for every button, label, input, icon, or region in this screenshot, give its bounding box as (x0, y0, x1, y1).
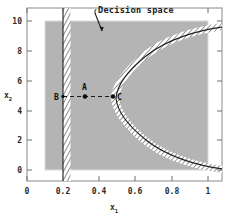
x-tick-label-3: 0.6 (128, 187, 143, 196)
x-axis-title-sub: 1 (115, 208, 119, 214)
point-A[interactable]: A (82, 83, 87, 99)
vertical-constraint-hatch (63, 8, 71, 181)
x-tick-label-1: 0.2 (56, 187, 71, 196)
y-tick-label-0: 0 (17, 166, 22, 175)
y-tick-label-1: 2 (17, 136, 22, 145)
decision-space-label: Decision space (98, 5, 174, 15)
point-A-label: A (82, 83, 87, 92)
x-axis-title: x1 (110, 203, 119, 214)
y-tick-label-3: 6 (17, 77, 22, 86)
y-tick-label-2: 4 (17, 107, 22, 116)
x-tick-label-0: 0 (25, 187, 30, 196)
y-tick-label-4: 8 (17, 47, 22, 56)
x-tick-label-4: 0.8 (165, 187, 180, 196)
y-tick-label-5: 10 (12, 17, 22, 26)
figure-decision-space: B A C Decision space (0, 0, 232, 218)
y-axis-title-sub: 2 (9, 96, 12, 102)
svg-text:x1: x1 (110, 203, 119, 214)
y-axis-tick-labels: 0 2 4 6 8 10 (12, 17, 22, 175)
x-tick-label-2: 0.4 (92, 187, 107, 196)
x-tick-label-5: 1 (206, 187, 211, 196)
point-B-label: B (54, 93, 59, 102)
plot-canvas: B A C Decision space (0, 0, 232, 218)
y-axis-title: x2 (4, 91, 12, 102)
point-C-label: C (117, 93, 122, 102)
svg-text:x2: x2 (4, 91, 12, 102)
x-axis-tick-labels: 0 0.2 0.4 0.6 0.8 1 (25, 187, 211, 196)
